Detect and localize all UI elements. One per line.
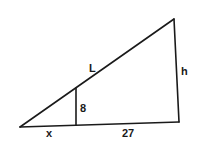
label-small-base: x	[46, 127, 53, 139]
label-hypotenuse: L	[89, 62, 96, 74]
triangle-diagram: L h 8 x 27	[0, 0, 197, 149]
label-inner-height: 8	[80, 102, 86, 114]
hypotenuse-line	[20, 19, 174, 127]
base-line	[20, 122, 179, 127]
label-remaining-base: 27	[122, 127, 134, 139]
label-height: h	[181, 65, 188, 77]
right-side-line	[174, 19, 179, 122]
